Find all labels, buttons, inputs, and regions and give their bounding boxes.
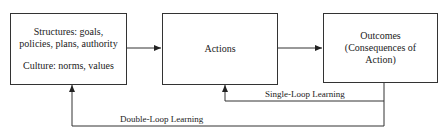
- single-loop-label: Single-Loop Learning: [265, 89, 345, 99]
- actions-box: Actions: [162, 13, 278, 85]
- outcomes-line-3: Action): [365, 54, 396, 66]
- actions-label: Actions: [204, 43, 235, 55]
- outcomes-box: Outcomes (Consequences of Action): [323, 13, 438, 83]
- double-loop-label: Double-Loop Learning: [120, 114, 203, 124]
- structures-line-2: policies, plans, authority: [19, 38, 117, 50]
- outcomes-line-1: Outcomes: [360, 30, 401, 42]
- structures-culture-box: Structures: goals, policies, plans, auth…: [10, 13, 127, 85]
- outcomes-line-2: (Consequences of: [345, 42, 416, 54]
- culture-line: Culture: norms, values: [23, 60, 114, 72]
- structures-line-1: Structures: goals,: [34, 26, 103, 38]
